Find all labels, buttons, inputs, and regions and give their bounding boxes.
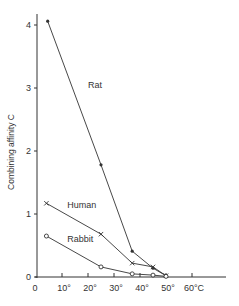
y-axis-title: Combining affinity C	[6, 114, 16, 190]
marker-dot	[131, 250, 134, 253]
marker-circle	[44, 234, 48, 238]
y-tick-label: 0	[26, 272, 31, 282]
x-tick-label: 60°C	[184, 283, 205, 293]
x-tick-label: 40°	[135, 283, 149, 293]
y-tick-label: 2	[26, 146, 31, 156]
x-tick-label: 20°	[83, 283, 97, 293]
series-line	[46, 236, 166, 276]
y-tick-label: 1	[26, 209, 31, 219]
chart: 01234010°20°30°40°50°60°CCombining affin…	[0, 0, 239, 306]
axes: 01234010°20°30°40°50°60°CCombining affin…	[6, 14, 226, 293]
series-line	[46, 203, 166, 275]
x-tick-label: 0	[32, 283, 37, 293]
y-tick-label: 4	[26, 20, 31, 30]
labels-group: RatHumanRabbit	[67, 80, 102, 244]
marker-circle	[99, 265, 103, 269]
series-line	[48, 21, 166, 276]
x-tick-label: 10°	[57, 283, 71, 293]
series-rabbit	[44, 234, 168, 278]
series-group	[44, 20, 168, 279]
y-tick-label: 3	[26, 83, 31, 93]
marker-circle	[151, 273, 155, 277]
series-human	[44, 201, 168, 278]
marker-cross	[99, 232, 103, 236]
marker-circle	[164, 274, 168, 278]
marker-cross	[44, 201, 48, 205]
marker-circle	[130, 272, 134, 276]
x-tick-label: 50°	[161, 283, 175, 293]
series-rat	[46, 20, 167, 278]
series-label-rabbit: Rabbit	[67, 234, 94, 244]
x-tick-label: 30°	[109, 283, 123, 293]
marker-dot	[99, 163, 102, 166]
series-label-human: Human	[67, 200, 96, 210]
series-label-rat: Rat	[88, 80, 103, 90]
marker-dot	[46, 20, 49, 23]
